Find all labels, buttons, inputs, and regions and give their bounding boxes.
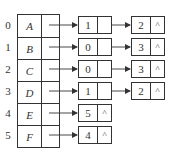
- adjvex-value: 3: [132, 61, 151, 77]
- edge-node-E-5: 5 ^: [78, 104, 112, 122]
- adjvex-value: 2: [132, 83, 151, 99]
- adjvex-value: 1: [79, 17, 98, 33]
- edge-node-C-3: 3 ^: [131, 60, 165, 78]
- next-pointer: [98, 61, 111, 77]
- edge-node-A-2: 2 ^: [131, 16, 165, 34]
- null-pointer-icon: ^: [98, 127, 111, 143]
- edge-node-B-0: 0: [78, 38, 112, 56]
- adjvex-value: 1: [79, 83, 98, 99]
- edge-node-B-3: 3 ^: [131, 38, 165, 56]
- adjvex-value: 0: [79, 39, 98, 55]
- next-pointer: [98, 83, 111, 99]
- adjvex-value: 4: [79, 127, 98, 143]
- adjvex-value: 0: [79, 61, 98, 77]
- null-pointer-icon: ^: [151, 83, 164, 99]
- edge-node-D-1: 1: [78, 82, 112, 100]
- edge-node-C-0: 0: [78, 60, 112, 78]
- null-pointer-icon: ^: [151, 61, 164, 77]
- edge-node-A-1: 1: [78, 16, 112, 34]
- null-pointer-icon: ^: [151, 39, 164, 55]
- edge-node-D-2: 2 ^: [131, 82, 165, 100]
- edge-node-F-4: 4 ^: [78, 126, 112, 144]
- adjvex-value: 2: [132, 17, 151, 33]
- adjvex-value: 5: [79, 105, 98, 121]
- adjvex-value: 3: [132, 39, 151, 55]
- null-pointer-icon: ^: [151, 17, 164, 33]
- next-pointer: [98, 17, 111, 33]
- next-pointer: [98, 39, 111, 55]
- null-pointer-icon: ^: [98, 105, 111, 121]
